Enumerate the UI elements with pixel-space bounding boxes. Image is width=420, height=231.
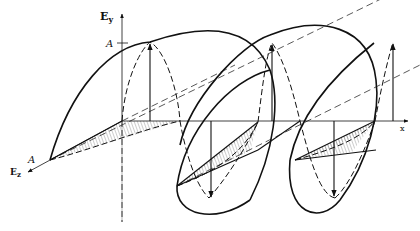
ey-axis-label: Ey xyxy=(100,10,113,24)
ez-axis-label: Ez xyxy=(10,167,21,179)
helix-outer xyxy=(50,25,377,214)
x-axis-label: x xyxy=(400,124,405,133)
amplitude-label-y: A xyxy=(105,38,113,49)
amplitude-label-z: A xyxy=(27,154,35,165)
polarization-diagram: Ey A A Ez x xyxy=(0,0,420,231)
hatched-z-plane xyxy=(50,121,375,186)
